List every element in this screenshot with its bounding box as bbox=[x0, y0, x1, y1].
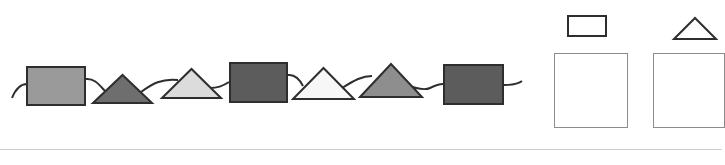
sequence-triangle-2 bbox=[92, 74, 153, 104]
divider-line bbox=[0, 149, 722, 150]
hint-triangle-icon bbox=[673, 17, 717, 40]
sequence-square-7 bbox=[443, 64, 504, 105]
answer-box-2[interactable] bbox=[653, 53, 725, 128]
sequence-triangle-5 bbox=[292, 67, 355, 100]
answer-box-1[interactable] bbox=[554, 53, 628, 128]
sequence-triangle-6 bbox=[359, 63, 423, 98]
sequence-square-1 bbox=[26, 66, 86, 106]
sequence-triangle-3 bbox=[161, 68, 222, 99]
sequence-square-4 bbox=[229, 62, 288, 103]
hint-rectangle-icon bbox=[567, 15, 607, 37]
